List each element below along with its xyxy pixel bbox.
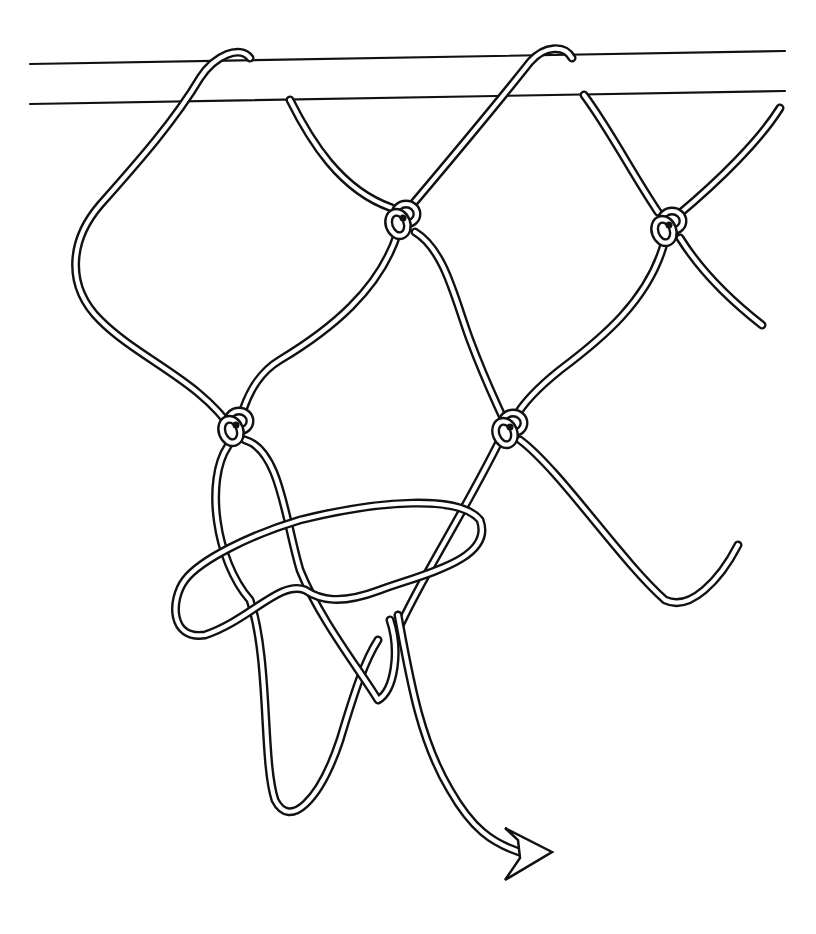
cord-left-loop-over-bar bbox=[76, 52, 250, 432]
illustration-canvas bbox=[0, 0, 816, 934]
bar-top-edge bbox=[30, 51, 785, 64]
cord-upper-right-to-middle-right bbox=[515, 240, 665, 418]
cord-bar-to-upper-right bbox=[584, 95, 658, 212]
cord-bar-to-upper-middle bbox=[290, 100, 392, 208]
net-knot-illustration bbox=[0, 0, 816, 934]
horizontal-bar bbox=[30, 51, 785, 104]
cord-working-end-tail bbox=[398, 615, 530, 855]
bar-bottom-edge bbox=[30, 91, 785, 104]
cord-upper-middle-over-bar bbox=[412, 49, 572, 205]
cord-upper-right-to-far-right bbox=[678, 108, 780, 215]
net-cords bbox=[76, 49, 780, 855]
cord-upper-right-lower-end bbox=[680, 238, 762, 325]
cord-middle-left-loop-down bbox=[245, 440, 395, 700]
cord-upper-middle-to-middle-right bbox=[415, 232, 503, 418]
cord-left-long-bight bbox=[216, 446, 378, 812]
cord-middle-right-zigzag bbox=[520, 440, 738, 603]
cord-upper-middle-to-middle-left bbox=[243, 232, 398, 410]
